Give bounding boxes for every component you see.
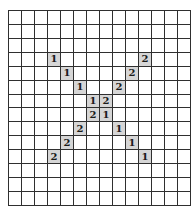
- empty-cell[interactable]: [138, 107, 151, 121]
- empty-cell[interactable]: [73, 149, 86, 163]
- empty-cell[interactable]: [177, 107, 190, 121]
- empty-cell[interactable]: [151, 66, 164, 80]
- empty-cell[interactable]: [164, 107, 177, 121]
- empty-cell[interactable]: [86, 80, 99, 94]
- empty-cell[interactable]: [151, 163, 164, 177]
- empty-cell[interactable]: [60, 10, 73, 24]
- empty-cell[interactable]: [34, 10, 47, 24]
- empty-cell[interactable]: [21, 10, 34, 24]
- empty-cell[interactable]: [86, 38, 99, 52]
- empty-cell[interactable]: [112, 10, 125, 24]
- empty-cell[interactable]: [125, 107, 138, 121]
- clue-cell[interactable]: 1: [86, 94, 99, 108]
- empty-cell[interactable]: [73, 10, 86, 24]
- empty-cell[interactable]: [21, 135, 34, 149]
- empty-cell[interactable]: [21, 107, 34, 121]
- empty-cell[interactable]: [177, 80, 190, 94]
- empty-cell[interactable]: [34, 24, 47, 38]
- empty-cell[interactable]: [151, 80, 164, 94]
- empty-cell[interactable]: [125, 80, 138, 94]
- empty-cell[interactable]: [125, 121, 138, 135]
- empty-cell[interactable]: [177, 121, 190, 135]
- clue-cell[interactable]: 1: [47, 52, 60, 66]
- empty-cell[interactable]: [34, 163, 47, 177]
- empty-cell[interactable]: [164, 38, 177, 52]
- empty-cell[interactable]: [125, 163, 138, 177]
- empty-cell[interactable]: [73, 135, 86, 149]
- empty-cell[interactable]: [138, 80, 151, 94]
- clue-cell[interactable]: 2: [112, 80, 125, 94]
- empty-cell[interactable]: [86, 135, 99, 149]
- empty-cell[interactable]: [21, 163, 34, 177]
- empty-cell[interactable]: [47, 94, 60, 108]
- empty-cell[interactable]: [151, 191, 164, 205]
- empty-cell[interactable]: [8, 94, 21, 108]
- empty-cell[interactable]: [99, 24, 112, 38]
- empty-cell[interactable]: [47, 10, 60, 24]
- empty-cell[interactable]: [86, 121, 99, 135]
- empty-cell[interactable]: [60, 191, 73, 205]
- empty-cell[interactable]: [73, 38, 86, 52]
- empty-cell[interactable]: [47, 38, 60, 52]
- empty-cell[interactable]: [86, 163, 99, 177]
- empty-cell[interactable]: [60, 94, 73, 108]
- clue-cell[interactable]: 2: [47, 149, 60, 163]
- empty-cell[interactable]: [86, 191, 99, 205]
- empty-cell[interactable]: [47, 121, 60, 135]
- empty-cell[interactable]: [138, 66, 151, 80]
- empty-cell[interactable]: [112, 191, 125, 205]
- empty-cell[interactable]: [138, 10, 151, 24]
- empty-cell[interactable]: [164, 149, 177, 163]
- empty-cell[interactable]: [177, 38, 190, 52]
- empty-cell[interactable]: [8, 135, 21, 149]
- empty-cell[interactable]: [8, 191, 21, 205]
- empty-cell[interactable]: [34, 191, 47, 205]
- empty-cell[interactable]: [21, 52, 34, 66]
- empty-cell[interactable]: [60, 177, 73, 191]
- empty-cell[interactable]: [112, 24, 125, 38]
- empty-cell[interactable]: [47, 66, 60, 80]
- empty-cell[interactable]: [21, 66, 34, 80]
- empty-cell[interactable]: [177, 52, 190, 66]
- empty-cell[interactable]: [177, 10, 190, 24]
- empty-cell[interactable]: [47, 135, 60, 149]
- empty-cell[interactable]: [60, 121, 73, 135]
- empty-cell[interactable]: [73, 52, 86, 66]
- empty-cell[interactable]: [73, 24, 86, 38]
- empty-cell[interactable]: [34, 149, 47, 163]
- empty-cell[interactable]: [21, 177, 34, 191]
- empty-cell[interactable]: [138, 163, 151, 177]
- empty-cell[interactable]: [99, 135, 112, 149]
- empty-cell[interactable]: [151, 135, 164, 149]
- empty-cell[interactable]: [112, 163, 125, 177]
- empty-cell[interactable]: [34, 177, 47, 191]
- empty-cell[interactable]: [60, 80, 73, 94]
- empty-cell[interactable]: [164, 121, 177, 135]
- empty-cell[interactable]: [99, 80, 112, 94]
- empty-cell[interactable]: [60, 163, 73, 177]
- empty-cell[interactable]: [99, 163, 112, 177]
- empty-cell[interactable]: [177, 66, 190, 80]
- clue-cell[interactable]: 2: [125, 66, 138, 80]
- empty-cell[interactable]: [86, 66, 99, 80]
- empty-cell[interactable]: [99, 177, 112, 191]
- empty-cell[interactable]: [151, 10, 164, 24]
- empty-cell[interactable]: [73, 94, 86, 108]
- empty-cell[interactable]: [164, 163, 177, 177]
- empty-cell[interactable]: [34, 135, 47, 149]
- empty-cell[interactable]: [125, 94, 138, 108]
- empty-cell[interactable]: [8, 163, 21, 177]
- clue-cell[interactable]: 1: [60, 66, 73, 80]
- clue-cell[interactable]: 1: [138, 149, 151, 163]
- empty-cell[interactable]: [8, 10, 21, 24]
- empty-cell[interactable]: [164, 24, 177, 38]
- empty-cell[interactable]: [34, 107, 47, 121]
- clue-cell[interactable]: 1: [73, 80, 86, 94]
- empty-cell[interactable]: [21, 191, 34, 205]
- empty-cell[interactable]: [60, 52, 73, 66]
- empty-cell[interactable]: [34, 80, 47, 94]
- empty-cell[interactable]: [73, 191, 86, 205]
- empty-cell[interactable]: [99, 121, 112, 135]
- empty-cell[interactable]: [164, 191, 177, 205]
- empty-cell[interactable]: [112, 38, 125, 52]
